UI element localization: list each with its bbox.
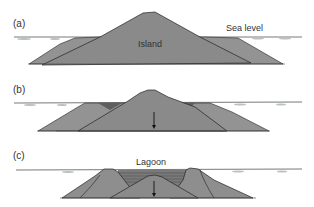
panel-a: (a) Island Sea level xyxy=(13,12,302,65)
panel-a-label: (a) xyxy=(13,18,25,29)
panel-b: (b) xyxy=(13,84,302,131)
atoll-formation-diagram: (a) Island Sea level (b) xyxy=(0,0,314,207)
panel-c-label: (c) xyxy=(13,150,25,161)
lagoon-label: Lagoon xyxy=(136,157,166,167)
sea-level-label: Sea level xyxy=(226,23,263,33)
panel-c: (c) Lagoon xyxy=(13,150,302,198)
island-label: Island xyxy=(138,39,162,49)
sea-level-line xyxy=(16,169,302,170)
panel-b-label: (b) xyxy=(13,84,25,95)
